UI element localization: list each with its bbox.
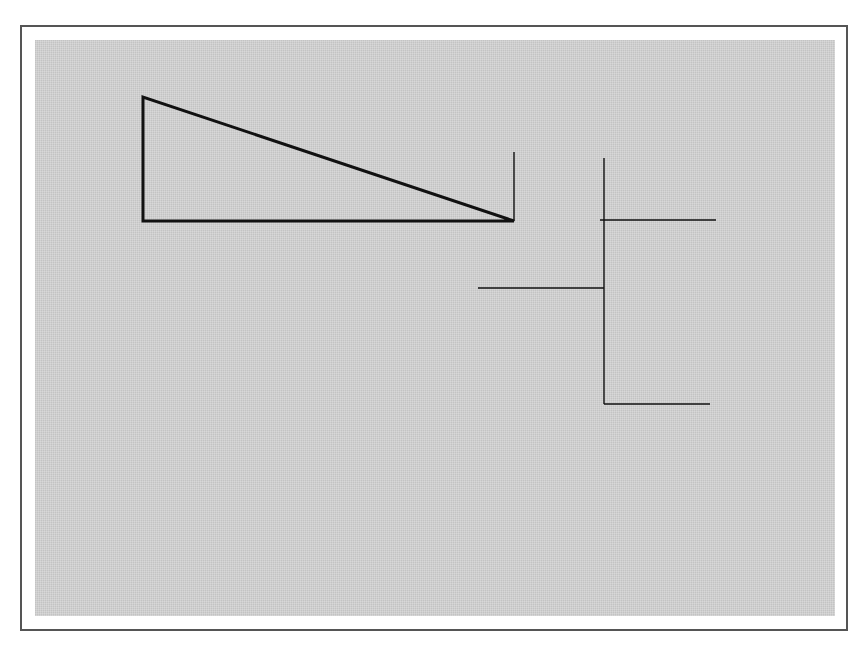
cone-triangle xyxy=(143,97,514,221)
wireframe-scene xyxy=(0,0,866,646)
